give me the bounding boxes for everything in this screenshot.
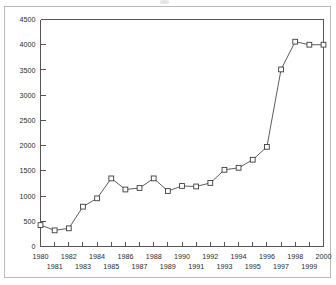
- data-point-marker: [109, 176, 114, 181]
- x-tick-label: 1991: [188, 262, 204, 271]
- x-tick-label: 1999: [301, 262, 317, 271]
- data-point-marker: [66, 226, 71, 231]
- data-point-marker: [279, 67, 284, 72]
- data-point-marker: [151, 176, 156, 181]
- data-point-marker: [265, 144, 270, 149]
- x-tick-label: 1989: [160, 262, 176, 271]
- x-tick-label: 1986: [117, 252, 133, 261]
- chart-figure: 050010001500200025003000350040004500 198…: [0, 0, 336, 285]
- y-tick-label: 2000: [20, 141, 36, 150]
- y-tick-label: 1500: [20, 166, 36, 175]
- x-axis-ticks: [41, 242, 324, 247]
- data-point-marker: [38, 223, 43, 228]
- data-point-marker: [95, 196, 100, 201]
- data-point-marker: [222, 167, 227, 172]
- data-point-marker: [180, 184, 185, 189]
- x-tick-label: 1984: [89, 252, 105, 261]
- x-axis-labels: 1980198119821983198419851986198719881989…: [33, 252, 332, 271]
- x-tick-label: 1985: [103, 262, 119, 271]
- data-point-marker: [194, 184, 199, 189]
- series-1-markers: [38, 39, 326, 232]
- data-point-marker: [137, 186, 142, 191]
- x-tick-label: 1997: [273, 262, 289, 271]
- y-tick-label: 3500: [20, 66, 36, 75]
- data-point-marker: [293, 39, 298, 44]
- data-point-marker: [321, 42, 326, 47]
- x-tick-label: 1987: [132, 262, 148, 271]
- x-tick-label: 1994: [231, 252, 247, 261]
- line-chart: 050010001500200025003000350040004500 198…: [0, 0, 336, 285]
- y-axis-ticks: [41, 20, 46, 247]
- x-tick-label: 1988: [146, 252, 162, 261]
- x-tick-label: 1980: [33, 252, 49, 261]
- y-tick-label: 500: [24, 217, 36, 226]
- x-tick-label: 1992: [202, 252, 218, 261]
- x-tick-label: 1998: [287, 252, 303, 261]
- y-tick-label: 3000: [20, 91, 36, 100]
- data-point-marker: [236, 165, 241, 170]
- data-point-marker: [250, 157, 255, 162]
- data-point-marker: [81, 204, 86, 209]
- data-point-marker: [52, 228, 57, 233]
- y-tick-label: 1000: [20, 192, 36, 201]
- x-tick-label: 1981: [47, 262, 63, 271]
- data-point-marker: [123, 187, 128, 192]
- y-tick-label: 4500: [20, 15, 36, 24]
- x-tick-label: 1983: [75, 262, 91, 271]
- y-tick-label: 4000: [20, 40, 36, 49]
- x-tick-label: 1993: [216, 262, 232, 271]
- x-tick-label: 1990: [174, 252, 190, 261]
- y-axis-labels: 050010001500200025003000350040004500: [20, 15, 36, 251]
- x-tick-label: 1982: [61, 252, 77, 261]
- y-tick-label: 0: [32, 242, 36, 251]
- data-point-marker: [165, 189, 170, 194]
- data-point-marker: [208, 181, 213, 186]
- x-tick-label: 2000: [316, 252, 332, 261]
- y-tick-label: 2500: [20, 116, 36, 125]
- data-point-marker: [307, 42, 312, 47]
- plot-axes: [41, 20, 324, 247]
- x-tick-label: 1995: [245, 262, 261, 271]
- x-tick-label: 1996: [259, 252, 275, 261]
